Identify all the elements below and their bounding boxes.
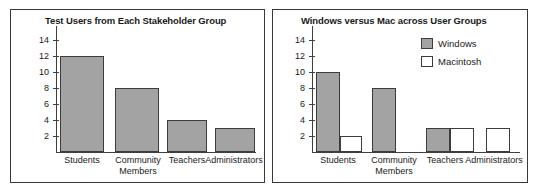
y-tick-12 <box>309 56 315 57</box>
legend-item-macintosh: Macintosh <box>421 56 481 67</box>
y-tick-label-10: 10 <box>289 68 305 77</box>
y-tick-label-14: 14 <box>289 36 305 45</box>
y-tick-label-12: 12 <box>33 52 49 61</box>
x-label-students: Students <box>308 155 368 166</box>
y-tick-label-6: 6 <box>33 100 49 109</box>
bar-teachers-macintosh <box>450 128 474 152</box>
bar-teachers-windows <box>426 128 450 152</box>
bar-students-windows <box>316 72 340 152</box>
y-tick-10 <box>53 72 59 73</box>
x-label-members: Members <box>107 166 169 177</box>
plot-area-right: 2 4 6 8 10 12 14 Windows Macintosh <box>273 10 527 182</box>
y-tick-6 <box>53 104 59 105</box>
chart-panel-right: Windows versus Mac across User Groups 2 … <box>272 9 528 183</box>
x-axis-line-left <box>56 152 256 153</box>
x-label-administrators: Administrators <box>199 155 269 166</box>
bar-community-windows <box>372 88 396 152</box>
legend-label-windows: Windows <box>438 38 477 49</box>
y-axis-line-left <box>56 26 57 152</box>
x-label-community: Community <box>107 155 169 166</box>
y-tick-4 <box>53 120 59 121</box>
y-tick-8 <box>309 88 315 89</box>
bar-teachers <box>167 120 207 152</box>
bar-students-macintosh <box>340 136 362 152</box>
y-tick-label-8: 8 <box>33 84 49 93</box>
bar-administrators <box>215 128 255 152</box>
y-tick-2 <box>53 136 59 137</box>
y-tick-10 <box>309 72 315 73</box>
x-label-administrators: Administrators <box>459 155 529 166</box>
x-label-members: Members <box>363 166 425 177</box>
y-tick-2 <box>309 136 315 137</box>
chart-panel-left: Test Users from Each Stakeholder Group 2… <box>10 9 265 183</box>
legend-item-windows: Windows <box>421 38 477 49</box>
y-axis-line-right <box>312 26 313 152</box>
bar-community-members <box>115 88 159 152</box>
x-label-students: Students <box>52 155 112 166</box>
two-bar-charts-figure: Test Users from Each Stakeholder Group 2… <box>0 0 538 193</box>
plot-area-left: 2 4 6 8 10 12 14 Students Community Memb… <box>11 10 264 182</box>
x-label-community: Community <box>363 155 425 166</box>
y-tick-label-2: 2 <box>289 132 305 141</box>
y-tick-label-14: 14 <box>33 36 49 45</box>
bar-administrators-macintosh <box>486 128 510 152</box>
y-tick-14 <box>53 40 59 41</box>
y-tick-label-10: 10 <box>33 68 49 77</box>
legend-swatch-windows-icon <box>421 38 433 49</box>
y-tick-12 <box>53 56 59 57</box>
y-tick-4 <box>309 120 315 121</box>
legend-label-macintosh: Macintosh <box>438 56 481 67</box>
y-tick-label-8: 8 <box>289 84 305 93</box>
x-axis-line-right <box>312 152 520 153</box>
y-tick-8 <box>53 88 59 89</box>
y-tick-label-12: 12 <box>289 52 305 61</box>
y-tick-label-2: 2 <box>33 132 49 141</box>
y-tick-label-4: 4 <box>289 116 305 125</box>
y-tick-label-4: 4 <box>33 116 49 125</box>
legend-swatch-macintosh-icon <box>421 56 433 67</box>
y-tick-14 <box>309 40 315 41</box>
bar-students <box>60 56 104 152</box>
y-tick-label-6: 6 <box>289 100 305 109</box>
y-tick-6 <box>309 104 315 105</box>
